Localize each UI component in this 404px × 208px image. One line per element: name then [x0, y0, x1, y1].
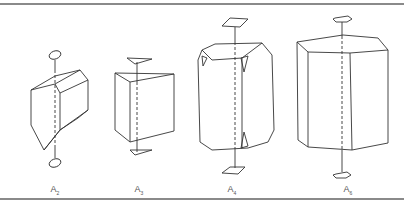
crystal-a2-diagram — [31, 49, 88, 169]
label-a3: A3 — [135, 184, 144, 196]
label-a2: A2 — [51, 184, 60, 196]
twofold-axis-symbol-bottom — [48, 157, 62, 169]
twofold-axis-symbol-top — [48, 49, 62, 61]
fourfold-axis-symbol-top — [222, 18, 248, 27]
crystal-a6-diagram — [297, 16, 388, 178]
crystal-a4-diagram — [198, 18, 274, 174]
sixfold-axis-symbol-bottom — [333, 172, 351, 178]
fourfold-axis-symbol-bottom — [222, 167, 245, 174]
crystal-a3-diagram — [115, 58, 174, 155]
label-a4: A4 — [228, 184, 237, 196]
threefold-axis-symbol-top — [127, 58, 152, 64]
sixfold-axis-symbol-top — [333, 16, 352, 22]
threefold-axis-symbol-bottom — [130, 150, 152, 155]
label-a6: A6 — [344, 184, 353, 196]
